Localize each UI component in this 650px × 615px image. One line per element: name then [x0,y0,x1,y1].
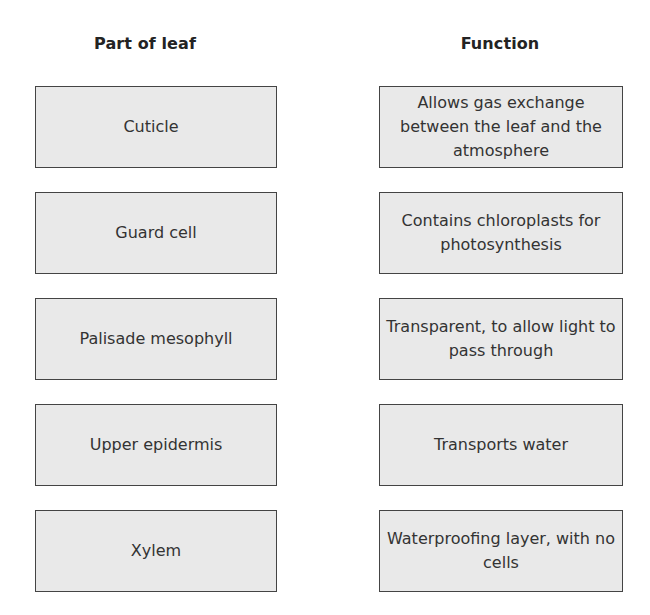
part-box-upper-epidermis[interactable]: Upper epidermis [35,404,277,486]
function-box-transports-water[interactable]: Transports water [379,404,623,486]
function-label: Waterproofing layer, with no cells [386,527,616,575]
function-box-waterproofing[interactable]: Waterproofing layer, with no cells [379,510,623,592]
function-label: Transparent, to allow light to pass thro… [386,315,616,363]
part-label: Cuticle [123,115,178,139]
part-box-cuticle[interactable]: Cuticle [35,86,277,168]
function-label: Transports water [434,433,568,457]
part-label: Guard cell [115,221,196,245]
part-box-palisade-mesophyll[interactable]: Palisade mesophyll [35,298,277,380]
part-label: Upper epidermis [90,433,223,457]
function-box-chloroplasts[interactable]: Contains chloroplasts for photosynthesis [379,192,623,274]
part-box-xylem[interactable]: Xylem [35,510,277,592]
function-box-gas-exchange[interactable]: Allows gas exchange between the leaf and… [379,86,623,168]
part-box-guard-cell[interactable]: Guard cell [35,192,277,274]
part-label: Xylem [131,539,181,563]
function-label: Allows gas exchange between the leaf and… [386,91,616,163]
function-box-transparent[interactable]: Transparent, to allow light to pass thro… [379,298,623,380]
function-label: Contains chloroplasts for photosynthesis [386,209,616,257]
functions-column-header: Function [415,34,585,53]
part-label: Palisade mesophyll [79,327,232,351]
parts-column-header: Part of leaf [60,34,230,53]
